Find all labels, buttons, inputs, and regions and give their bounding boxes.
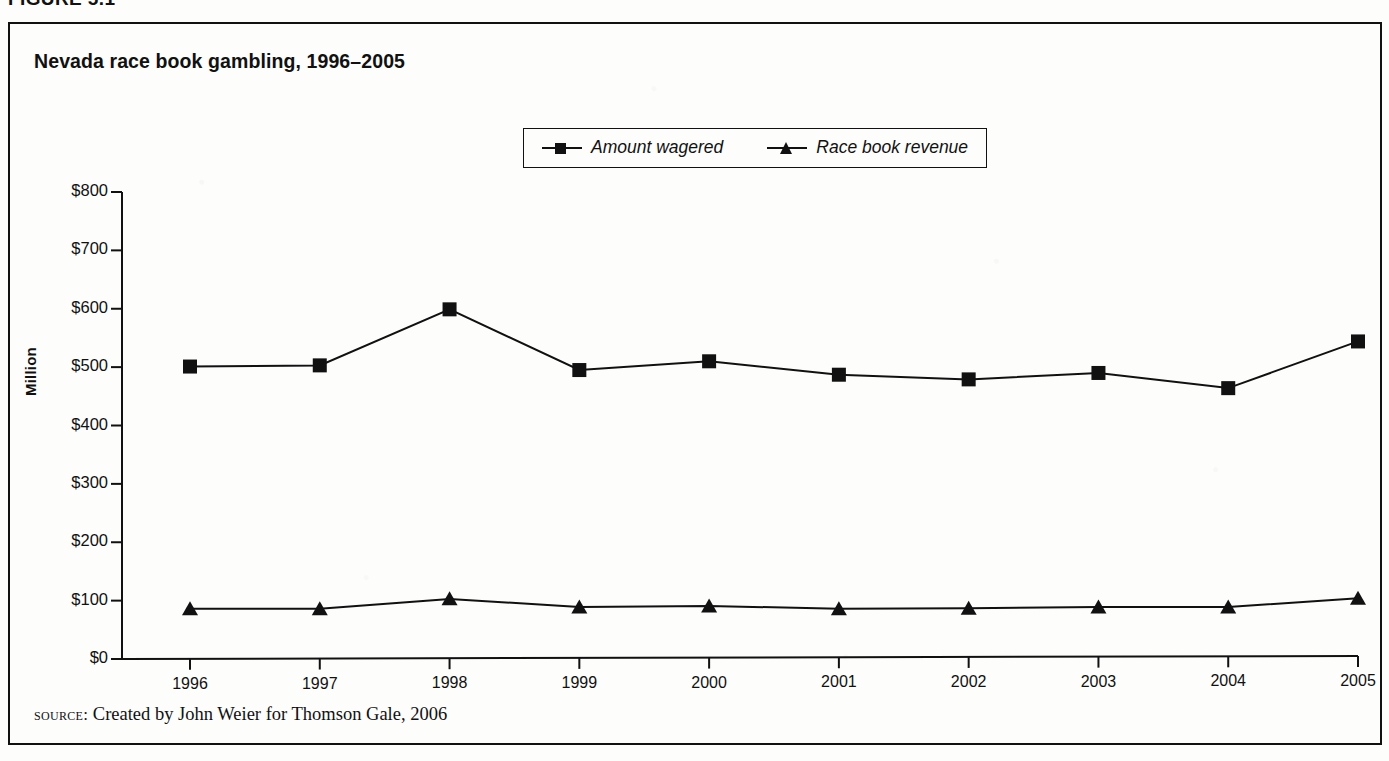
source-note: source: Created by John Weier for Thomso… <box>34 704 447 725</box>
square-marker-icon <box>702 354 716 368</box>
y-axis-tick-label: $100 <box>22 590 108 609</box>
y-axis-tick-label: $300 <box>22 473 108 492</box>
square-marker-icon <box>1091 366 1105 380</box>
square-marker-icon <box>1221 381 1235 395</box>
figure-caption: FIGURE 5.1 <box>8 0 115 12</box>
square-marker-icon <box>572 363 586 377</box>
x-axis <box>122 656 1358 659</box>
y-axis-tick-label: $500 <box>22 356 108 375</box>
square-marker-icon <box>183 360 197 374</box>
y-axis-tick-label: $0 <box>22 648 108 667</box>
square-marker-icon <box>443 302 457 316</box>
square-marker-icon <box>832 368 846 382</box>
square-marker-icon <box>962 372 976 386</box>
chart-canvas <box>10 24 1384 747</box>
series-line-amount-wagered <box>190 309 1358 388</box>
series-line-race-book-revenue <box>190 598 1358 609</box>
y-axis-tick-label: $600 <box>22 298 108 317</box>
source-label: source: <box>34 705 88 724</box>
y-axis-tick-label: $700 <box>22 239 108 258</box>
x-axis-tick-label: 1998 <box>400 674 500 692</box>
x-axis-tick-label: 2000 <box>659 674 759 692</box>
x-axis-tick-label: 2002 <box>919 673 1019 691</box>
x-axis-tick-label: 1996 <box>140 675 240 693</box>
figure-frame: Nevada race book gambling, 1996–2005 Amo… <box>8 22 1382 745</box>
square-marker-icon <box>1351 334 1365 348</box>
plot-area: Million $0$100$200$300$400$500$600$700$8… <box>10 24 1384 747</box>
source-text: Created by John Weier for Thomson Gale, … <box>93 704 447 724</box>
y-axis-tick-label: $800 <box>22 181 108 200</box>
x-axis-tick-label: 2003 <box>1048 673 1148 691</box>
x-axis-tick-label: 2004 <box>1178 672 1278 690</box>
x-axis-tick-label: 2005 <box>1308 672 1389 690</box>
square-marker-icon <box>313 358 327 372</box>
x-axis-tick-label: 1999 <box>529 674 629 692</box>
x-axis-tick-label: 1997 <box>270 675 370 693</box>
y-axis-tick-label: $200 <box>22 531 108 550</box>
x-axis-tick-label: 2001 <box>789 673 889 691</box>
y-axis-tick-label: $400 <box>22 415 108 434</box>
